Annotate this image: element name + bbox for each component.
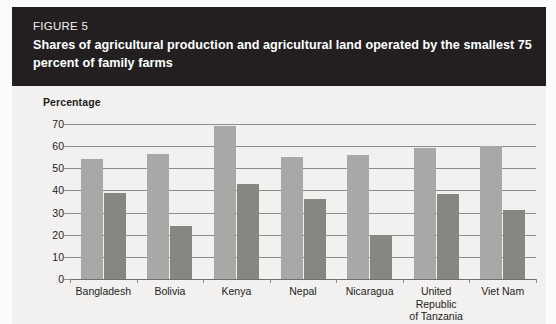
y-axis-tick-labels: 010203040506070: [38, 124, 64, 279]
x-axis-category-label: United Republic of Tanzania: [403, 285, 470, 323]
bar-production: [414, 148, 436, 279]
y-axis-tick: [64, 257, 70, 258]
y-axis-tick-label: 40: [42, 184, 64, 196]
y-axis-tick-label: 60: [42, 140, 64, 152]
bar-group: [81, 124, 126, 279]
page-margin-left: [0, 0, 12, 324]
x-axis-tick: [70, 279, 71, 283]
bar-land: [370, 235, 392, 279]
y-axis-tick-label: 50: [42, 162, 64, 174]
bar-land: [237, 184, 259, 279]
bar-production: [480, 146, 502, 279]
bar-group: [147, 124, 192, 279]
page-margin-right: [546, 0, 556, 324]
figure-number-label: FIGURE 5: [33, 19, 546, 34]
x-axis-tick: [403, 279, 404, 283]
page-margin-top: [0, 0, 556, 7]
bar-production: [347, 155, 369, 279]
y-axis-tick: [64, 190, 70, 191]
bar-group: [281, 124, 326, 279]
bar-group: [480, 124, 525, 279]
bar-production: [81, 159, 103, 279]
x-axis-tick: [203, 279, 204, 283]
y-axis-title: Percentage: [43, 96, 101, 108]
y-axis-tick: [64, 168, 70, 169]
x-axis-tick: [536, 279, 537, 283]
x-axis-category-label: Bangladesh: [70, 285, 137, 298]
x-axis-category-label: Bolivia: [137, 285, 204, 298]
bar-production: [147, 154, 169, 279]
x-axis-tick: [137, 279, 138, 283]
figure-header-band: FIGURE 5 Shares of agricultural producti…: [12, 7, 546, 86]
chart-panel: Percentage 010203040506070 BangladeshBol…: [12, 86, 546, 324]
figure-page: FIGURE 5 Shares of agricultural producti…: [0, 0, 556, 324]
y-axis-tick: [64, 235, 70, 236]
bar-land: [304, 199, 326, 279]
y-axis-tick: [64, 213, 70, 214]
bar-group: [347, 124, 392, 279]
bar-production: [281, 157, 303, 279]
bar-land: [437, 194, 459, 279]
plot-area: BangladeshBoliviaKenyaNepalNicaraguaUnit…: [70, 124, 536, 279]
figure-title: Shares of agricultural production and ag…: [33, 37, 533, 72]
x-axis-tick: [469, 279, 470, 283]
bar-land: [503, 210, 525, 279]
y-axis-tick-label: 70: [42, 118, 64, 130]
y-axis-tick: [64, 124, 70, 125]
x-axis-category-label: Nepal: [270, 285, 337, 298]
x-axis-tick: [336, 279, 337, 283]
bar-land: [104, 193, 126, 279]
x-axis-category-label: Viet Nam: [469, 285, 536, 298]
bar-production: [214, 126, 236, 279]
x-axis-category-label: Nicaragua: [336, 285, 403, 298]
bar-land: [170, 226, 192, 279]
bar-group: [414, 124, 459, 279]
y-axis-tick-label: 0: [42, 273, 64, 285]
y-axis-tick-label: 10: [42, 251, 64, 263]
y-axis-tick-label: 20: [42, 229, 64, 241]
x-axis-category-label: Kenya: [203, 285, 270, 298]
y-axis-tick-label: 30: [42, 207, 64, 219]
x-axis-tick: [270, 279, 271, 283]
y-axis-tick: [64, 146, 70, 147]
bar-group: [214, 124, 259, 279]
